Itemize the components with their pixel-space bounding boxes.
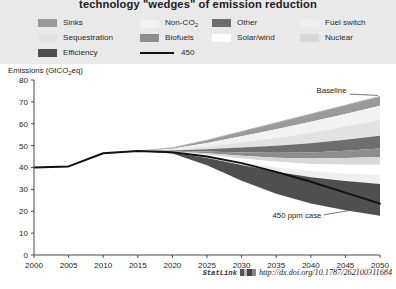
y-tick-label: 0 <box>24 251 29 260</box>
legend-label: Fuel switch <box>325 18 365 27</box>
legend-swatch <box>212 34 231 42</box>
legend-swatch <box>38 34 57 42</box>
legend-label: Solar/wind <box>237 33 275 42</box>
legend-item-sequestration[interactable]: Sequestration <box>38 33 113 42</box>
legend-label: Efficiency <box>63 48 98 57</box>
y-tick-label: 80 <box>19 76 28 85</box>
legend-swatch <box>38 49 57 57</box>
legend-label: Sinks <box>63 18 83 27</box>
statlink-label: StatLink <box>202 269 237 277</box>
annotation-baseline: Baseline <box>317 86 347 95</box>
legend-swatch <box>300 19 319 27</box>
legend-swatch <box>140 20 159 28</box>
legend-item-nuclear[interactable]: Nuclear <box>300 33 353 42</box>
chart-legend: SinksSequestrationEfficiencyNon-CO2Biofu… <box>0 18 396 62</box>
legend-item-non-co2[interactable]: Non-CO2 <box>140 18 198 30</box>
wedges-area-chart: 0102030405060708020002005201020152020202… <box>0 64 396 289</box>
y-tick-label: 40 <box>19 163 28 172</box>
legend-label: Other <box>237 18 257 27</box>
statlink-footer: StatLinkhttp://dx.doi.org/10.1787/262100… <box>0 268 396 277</box>
y-tick-label: 30 <box>19 185 28 194</box>
legend-item-fuel-switch[interactable]: Fuel switch <box>300 18 365 27</box>
y-tick-label: 60 <box>19 120 28 129</box>
legend-label: Nuclear <box>325 33 353 42</box>
chart-figure: technology "wedges" of emission reductio… <box>0 0 396 289</box>
legend-line-swatch <box>140 52 174 54</box>
y-tick-label: 70 <box>19 98 28 107</box>
y-tick-label: 20 <box>19 207 28 216</box>
annotation-baseline-leader <box>350 94 378 95</box>
y-tick-label: 50 <box>19 142 28 151</box>
chart-title: technology "wedges" of emission reductio… <box>0 0 396 10</box>
plot-area: 0102030405060708020002005201020152020202… <box>0 64 396 289</box>
legend-label: Sequestration <box>63 33 113 42</box>
legend-label: Non-CO2 <box>165 18 198 30</box>
legend-item-450[interactable]: 450 <box>140 48 195 57</box>
legend-item-biofuels[interactable]: Biofuels <box>140 33 194 42</box>
y-tick-label: 10 <box>19 229 28 238</box>
legend-label: 450 <box>181 48 195 57</box>
statlink-barcode-icon <box>240 269 256 276</box>
legend-swatch <box>38 19 57 27</box>
statlink-url[interactable]: http://dx.doi.org/10.1787/262100311684 <box>259 268 392 277</box>
legend-swatch <box>212 19 231 27</box>
annotation-450-ppm-case: 450 ppm case <box>272 211 321 220</box>
legend-swatch <box>140 34 159 42</box>
legend-item-other[interactable]: Other <box>212 18 257 27</box>
legend-swatch <box>300 34 319 42</box>
legend-item-efficiency[interactable]: Efficiency <box>38 48 98 57</box>
legend-item-sinks[interactable]: Sinks <box>38 18 83 27</box>
legend-item-solar-wind[interactable]: Solar/wind <box>212 33 275 42</box>
legend-label: Biofuels <box>165 33 194 42</box>
